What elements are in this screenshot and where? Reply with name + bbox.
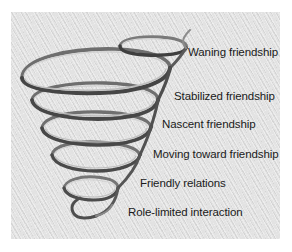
- stage-label-stabilized-friendship: Stabilized friendship: [174, 90, 275, 103]
- stage-label-moving-toward-friendship: Moving toward friendship: [153, 148, 278, 161]
- stage-label-role-limited-interaction: Role-limited interaction: [128, 206, 243, 219]
- stage-label-friendly-relations: Friendly relations: [140, 177, 226, 190]
- stage-label-waning-friendship: Waning friendship: [188, 46, 278, 59]
- stage-label-nascent-friendship: Nascent friendship: [162, 118, 255, 131]
